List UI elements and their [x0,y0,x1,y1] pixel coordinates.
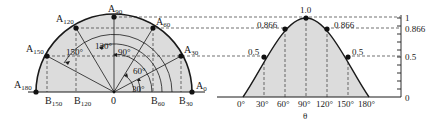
label-a180: A180 [14,79,32,92]
point-a180 [33,89,38,94]
sine-point-60 [282,26,287,31]
y-label-05: 0.5 [405,52,417,62]
sine-point-120 [324,26,329,31]
x-tick-60: 60° [277,99,290,109]
y-label-0: 0 [405,93,410,103]
y-label-0866: 0.866 [405,24,426,34]
angle-label-150: 150° [66,47,84,57]
x-tick-150: 150° [337,99,355,109]
sine-point-90 [303,15,308,20]
x-tick-30: 30° [256,99,269,109]
value-label-60: 0.866 [257,20,278,30]
label-a150: A150 [26,43,44,56]
label-a30: A30 [184,44,199,57]
x-tick-120: 120° [316,99,334,109]
value-label-120: 0.866 [334,20,355,30]
sine-point-30 [261,54,266,59]
angle-label-30: 30° [132,84,145,94]
point-origin [113,91,116,94]
angle-label-90: 90° [118,47,131,57]
sine-chart: 1.0 0.866 0.866 0.5 0.5 1 0.866 0.5 0 0°… [217,5,426,121]
label-a120: A120 [56,13,74,26]
sine-projection-figure: A0 A30 A60 A90 A120 A150 A180 B150 B120 … [0,0,439,123]
angle-label-120: 120° [95,41,113,51]
value-label-peak: 1.0 [300,5,312,15]
label-a0: A0 [196,80,207,93]
label-origin: 0 [111,95,116,106]
x-tick-180: 180° [358,99,376,109]
label-b120: B120 [74,95,92,108]
angle-label-60: 60° [133,66,146,76]
x-tick-90: 90° [298,99,311,109]
sine-point-150 [345,54,350,59]
label-b30: B30 [179,95,193,108]
x-tick-0: 0° [237,99,246,109]
x-axis-label: θ [303,111,307,121]
point-a150 [44,53,49,58]
point-a60 [150,25,155,30]
value-label-30: 0.5 [248,47,260,57]
point-a120 [73,25,78,30]
label-b150: B150 [45,95,63,108]
point-a0 [189,89,194,94]
point-a30 [178,53,183,58]
y-label-1: 1 [405,13,410,23]
value-label-150: 0.5 [352,47,364,57]
label-b60: B60 [151,95,165,108]
